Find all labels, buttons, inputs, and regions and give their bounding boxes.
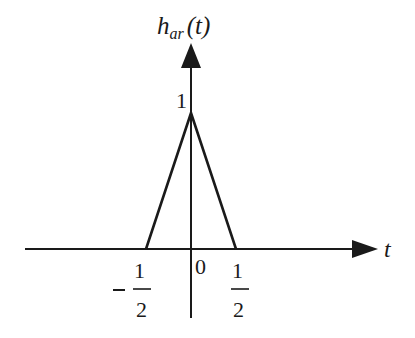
x-axis-arrowhead-icon — [352, 240, 378, 258]
right-tick-denominator: 2 — [233, 297, 244, 322]
peak-value-label: 1 — [176, 88, 187, 113]
y-axis-label: har(t) — [157, 12, 210, 42]
left-tick-denominator: 2 — [136, 297, 147, 322]
triangular-pulse-diagram: har(t) t 1 0 1 2 1 2 — [0, 0, 415, 338]
origin-label: 0 — [195, 254, 206, 279]
right-tick-label: 1 2 — [231, 258, 249, 322]
x-axis-label: t — [384, 236, 392, 262]
left-tick-numerator: 1 — [134, 258, 145, 283]
left-tick-label: 1 2 — [113, 258, 151, 322]
right-tick-numerator: 1 — [232, 258, 243, 283]
y-axis-arrowhead-icon — [181, 43, 201, 68]
